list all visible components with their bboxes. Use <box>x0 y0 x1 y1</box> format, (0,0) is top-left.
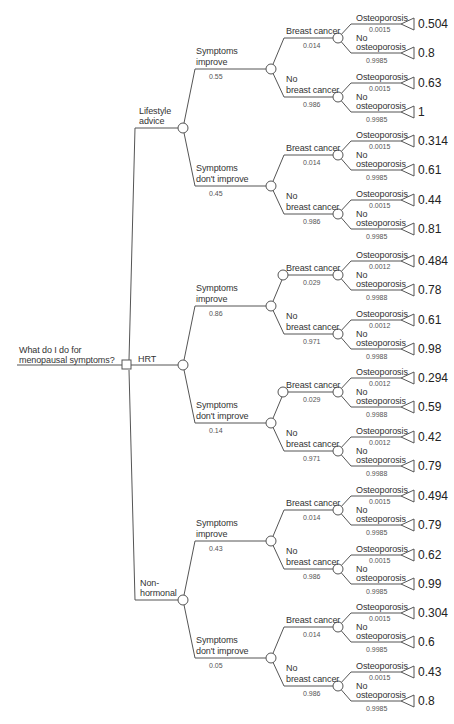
option-label-line1: Lifestyle <box>139 106 171 116</box>
osteoporosis-payoff: 0.484 <box>418 255 448 267</box>
root-question-label: What do I do for menopausal symptoms? <box>19 345 115 365</box>
no-osteoporosis-probability: 0.9988 <box>366 294 387 302</box>
osteoporosis-label: Osteoporosis <box>356 661 408 671</box>
osteoporosis-label: Osteoporosis <box>356 602 408 612</box>
root-label-line2: menopausal symptoms? <box>19 355 115 365</box>
option-label-hrt: HRT <box>138 354 156 364</box>
osteoporosis-payoff: 0.63 <box>418 77 441 89</box>
symptom-probability: 0.14 <box>209 427 223 435</box>
no-osteoporosis-payoff: 0.78 <box>418 284 441 296</box>
breast-cancer-label-line2: Breast cancer <box>286 143 340 153</box>
no-osteoporosis-probability: 0.9985 <box>366 116 387 124</box>
no-osteoporosis-label-line2: osteoporosis <box>356 514 406 524</box>
symptom-label-line1: Symptoms <box>196 400 238 410</box>
osteoporosis-probability: 0.0012 <box>369 439 390 447</box>
breast-cancer-label-line2: Breast cancer <box>286 615 340 625</box>
symptom-probability: 0.05 <box>209 662 223 670</box>
no-osteoporosis-payoff: 0.8 <box>418 695 435 707</box>
breast-cancer-probability: 0.986 <box>303 101 321 109</box>
no-osteoporosis-label-line2: osteoporosis <box>356 159 406 169</box>
no-osteoporosis-probability: 0.9985 <box>366 646 387 654</box>
symptom-label-line1: Symptoms <box>196 283 238 293</box>
no-osteoporosis-payoff: 0.79 <box>418 460 441 472</box>
no-osteoporosis-payoff: 0.98 <box>418 343 441 355</box>
osteoporosis-probability: 0.0015 <box>369 674 390 682</box>
root-label-line1: What do I do for <box>19 345 115 355</box>
osteoporosis-payoff: 0.504 <box>418 18 448 30</box>
breast-cancer-chance-node[interactable] <box>266 418 276 428</box>
breast-cancer-probability: 0.986 <box>303 573 321 581</box>
symptom-label-line2: don't improve <box>196 411 248 421</box>
symptom-branch-line <box>183 69 266 128</box>
breast-cancer-chance-node[interactable] <box>266 536 276 546</box>
osteoporosis-payoff: 0.43 <box>418 666 441 678</box>
no-osteoporosis-label-line2: osteoporosis <box>356 573 406 583</box>
breast-cancer-chance-node[interactable] <box>266 653 276 663</box>
no-osteoporosis-label-line2: osteoporosis <box>356 455 406 465</box>
osteoporosis-payoff: 0.62 <box>418 549 441 561</box>
symptom-label-line1: Symptoms <box>196 46 238 56</box>
osteoporosis-probability: 0.0015 <box>369 557 390 565</box>
symptom-label-line2: don't improve <box>196 174 248 184</box>
no-osteoporosis-label-line2: osteoporosis <box>356 279 406 289</box>
breast-cancer-branch-line <box>271 155 333 186</box>
breast-cancer-probability: 0.986 <box>303 218 321 226</box>
option-label-nonhormonal: Non- hormonal <box>140 578 177 598</box>
no-osteoporosis-probability: 0.9985 <box>366 174 387 182</box>
no-osteoporosis-probability: 0.9988 <box>366 411 387 419</box>
osteoporosis-label: Osteoporosis <box>356 13 408 23</box>
breast-cancer-label-line1: No <box>286 663 297 673</box>
no-osteoporosis-payoff: 0.6 <box>418 636 435 648</box>
breast-cancer-label-line2: breast cancer <box>286 202 339 212</box>
no-osteoporosis-payoff: 0.79 <box>418 519 441 531</box>
breast-cancer-branch-line <box>271 38 333 69</box>
symptom-label-line2: improve <box>196 57 227 67</box>
breast-cancer-chance-node[interactable] <box>266 301 276 311</box>
breast-cancer-chance-node[interactable] <box>266 64 276 74</box>
no-osteoporosis-probability: 0.9985 <box>366 529 387 537</box>
osteoporosis-probability: 0.0012 <box>369 380 390 388</box>
no-osteoporosis-payoff: 0.81 <box>418 223 441 235</box>
osteoporosis-label: Osteoporosis <box>356 250 408 260</box>
no-osteoporosis-probability: 0.9988 <box>366 353 387 361</box>
breast-cancer-probability: 0.971 <box>303 455 321 463</box>
osteoporosis-payoff: 0.61 <box>418 314 441 326</box>
breast-cancer-label-line2: breast cancer <box>286 557 339 567</box>
symptom-branch-line <box>183 541 266 600</box>
symptom-chance-node[interactable] <box>178 595 188 605</box>
osteoporosis-label: Osteoporosis <box>356 426 408 436</box>
symptom-probability: 0.45 <box>209 190 223 198</box>
symptom-chance-node[interactable] <box>178 360 188 370</box>
osteoporosis-probability: 0.0015 <box>369 202 390 210</box>
breast-cancer-label-line1: No <box>286 428 297 438</box>
option-label-line1: HRT <box>138 354 156 364</box>
no-osteoporosis-payoff: 0.99 <box>418 578 441 590</box>
symptom-chance-node[interactable] <box>178 123 188 133</box>
osteoporosis-label: Osteoporosis <box>356 485 408 495</box>
osteoporosis-probability: 0.0012 <box>369 322 390 330</box>
breast-cancer-probability: 0.029 <box>303 396 321 404</box>
breast-cancer-probability: 0.971 <box>303 338 321 346</box>
symptom-probability: 0.43 <box>209 545 223 553</box>
no-osteoporosis-payoff: 1 <box>418 106 425 118</box>
decision-trunk-nonhormonal <box>129 370 181 600</box>
osteoporosis-probability: 0.0015 <box>369 498 390 506</box>
breast-cancer-label-line1: No <box>286 311 297 321</box>
osteoporosis-probability: 0.0012 <box>369 263 390 271</box>
osteoporosis-probability: 0.0015 <box>369 26 390 34</box>
no-osteoporosis-label-line2: osteoporosis <box>356 42 406 52</box>
breast-cancer-label-line2: breast cancer <box>286 674 339 684</box>
osteoporosis-payoff: 0.42 <box>418 431 441 443</box>
osteoporosis-payoff: 0.304 <box>418 607 448 619</box>
osteoporosis-label: Osteoporosis <box>356 367 408 377</box>
osteoporosis-probability: 0.0015 <box>369 615 390 623</box>
breast-cancer-label-line2: breast cancer <box>286 439 339 449</box>
breast-cancer-probability: 0.014 <box>303 159 321 167</box>
breast-cancer-chance-node[interactable] <box>266 181 276 191</box>
symptom-label-line2: don't improve <box>196 646 248 656</box>
option-label-line2: advice <box>139 116 171 126</box>
option-label-line1: Non- <box>140 578 177 588</box>
decision-node-square[interactable] <box>122 360 131 369</box>
breast-cancer-label-line1: No <box>286 546 297 556</box>
no-osteoporosis-payoff: 0.61 <box>418 164 441 176</box>
